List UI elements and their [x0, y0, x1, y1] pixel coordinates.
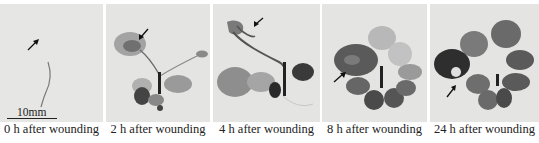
panel-8h [322, 4, 427, 122]
plant-image-0h [0, 4, 103, 122]
panel-2h [106, 4, 210, 122]
panel-4h [213, 4, 320, 122]
plant-image-8h [322, 4, 427, 122]
caption-0h: 0 h after wounding [0, 122, 103, 137]
panel-24h [430, 4, 539, 122]
caption-4h: 4 h after wounding [213, 122, 320, 137]
caption-2h: 2 h after wounding [106, 122, 210, 137]
plant-image-24h [430, 4, 539, 122]
arrow-icon [334, 72, 346, 82]
scale-bar [7, 118, 57, 119]
plant-image-4h [213, 4, 320, 122]
arrow-icon [28, 39, 39, 50]
arrow-icon [447, 85, 456, 97]
scale-bar-label: 10mm [17, 106, 46, 118]
caption-24h: 24 h after wounding [430, 122, 539, 137]
panel-0h [0, 4, 103, 122]
plant-image-2h [106, 4, 210, 122]
caption-8h: 8 h after wounding [322, 122, 427, 137]
arrow-icon [254, 18, 263, 27]
